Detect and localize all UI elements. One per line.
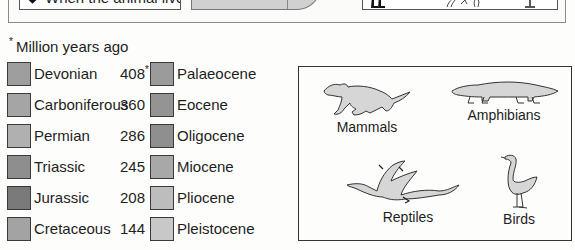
animal-key-panel: Mammals Amphibians Reptiles Birds <box>298 66 572 241</box>
color-swatch <box>150 124 174 148</box>
color-swatch <box>150 93 174 117</box>
period-name: Triassic <box>34 158 85 175</box>
color-swatch <box>7 155 31 179</box>
when-legend: When the animal lived <box>19 0 181 10</box>
period-name: Oligocene <box>177 127 245 144</box>
period-name: Devonian <box>34 65 97 82</box>
period-name: Pliocene <box>177 189 235 206</box>
bird-icon <box>489 153 549 211</box>
color-swatch <box>150 155 174 179</box>
animal-label: Reptiles <box>343 209 473 225</box>
timeline-bar-sample <box>191 0 321 10</box>
animal-birds: Birds <box>479 153 559 227</box>
footnote-marker: * <box>9 36 13 47</box>
animal-label: Mammals <box>317 119 417 135</box>
period-mya: 360 <box>120 96 145 113</box>
period-name: Permian <box>34 127 90 144</box>
period-name: Miocene <box>177 158 234 175</box>
color-swatch <box>150 186 174 210</box>
color-swatch <box>150 217 174 241</box>
period-name: Jurassic <box>34 189 89 206</box>
period-mya: 286 <box>120 127 145 144</box>
when-label: When the animal lived <box>45 0 181 6</box>
footnote: *Million years ago <box>9 38 128 55</box>
animal-legs-icon <box>369 0 389 8</box>
mammal-icon <box>320 77 414 119</box>
animal-reptiles: Reptiles <box>343 157 473 225</box>
footnote-text: Million years ago <box>16 38 129 55</box>
color-swatch <box>7 124 31 148</box>
animal-icons-strip <box>362 0 558 10</box>
color-swatch <box>7 62 31 86</box>
color-swatch <box>7 93 31 117</box>
color-swatch <box>7 217 31 241</box>
amphibian-icon <box>448 79 560 107</box>
period-mya: 144 <box>120 220 145 237</box>
diamond-icon <box>26 0 39 4</box>
period-name: Pleistocene <box>177 220 255 237</box>
animal-mammals: Mammals <box>317 77 417 135</box>
period-name: Palaeocene <box>177 65 256 82</box>
period-name: Carboniferous <box>34 96 128 113</box>
stand-icon <box>523 0 537 8</box>
bar-divider <box>287 0 288 9</box>
period-mya: 208 <box>120 189 145 206</box>
animal-label: Birds <box>479 211 559 227</box>
pterosaur-icon <box>343 157 473 209</box>
bird-feet-icon <box>445 0 485 8</box>
period-mya: 408* <box>120 65 149 82</box>
period-mya: 245 <box>120 158 145 175</box>
animal-label: Amphibians <box>445 107 563 123</box>
color-swatch <box>7 186 31 210</box>
animal-amphibians: Amphibians <box>445 79 563 123</box>
color-swatch <box>150 62 174 86</box>
period-name: Cretaceous <box>34 220 111 237</box>
period-name: Eocene <box>177 96 228 113</box>
